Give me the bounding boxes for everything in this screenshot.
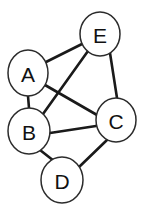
graph-diagram-canvas: AEBCD: [0, 0, 142, 214]
node-layer: AEBCD: [8, 12, 136, 203]
graph-edge-c-d: [78, 140, 107, 168]
graph-edge-c-e: [110, 53, 117, 98]
graph-edge-a-e: [46, 44, 82, 62]
graph-node-c[interactable]: C: [96, 98, 136, 142]
graph-node-e[interactable]: E: [80, 12, 120, 56]
graph-node-b[interactable]: B: [8, 108, 50, 154]
graph-node-shape-c: [96, 98, 136, 142]
graph-node-a[interactable]: A: [8, 50, 48, 96]
graph-diagram: AEBCD: [0, 0, 142, 214]
graph-node-d[interactable]: D: [41, 157, 83, 203]
graph-edge-b-c: [50, 126, 96, 133]
graph-node-shape-e: [80, 12, 120, 56]
graph-node-shape-d: [41, 157, 83, 203]
graph-node-shape-b: [8, 108, 50, 154]
graph-node-shape-a: [8, 50, 48, 96]
graph-edge-a-b: [28, 96, 29, 108]
